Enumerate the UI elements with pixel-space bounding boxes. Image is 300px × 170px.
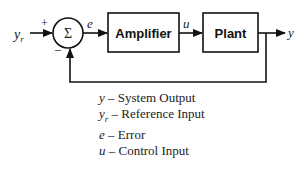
- legend-dash: –: [106, 143, 119, 158]
- legend-item: e – Error: [99, 127, 205, 143]
- legend-description: Error: [118, 127, 145, 142]
- legend-description: System Output: [118, 90, 196, 105]
- legend-item: u – Control Input: [99, 143, 205, 159]
- control-input-label: u: [183, 16, 190, 31]
- legend-dash: –: [108, 106, 121, 121]
- error-label: e: [87, 16, 93, 31]
- sigma-symbol: Σ: [64, 26, 72, 41]
- amplifier-label: Amplifier: [115, 26, 171, 41]
- reference-input-label: yr: [12, 27, 24, 44]
- legend: y – System Output yr – Reference Input e…: [99, 90, 205, 159]
- legend-description: Reference Input: [121, 106, 204, 121]
- legend-item: yr – Reference Input: [99, 106, 205, 127]
- legend-dash: –: [105, 90, 118, 105]
- output-label: y: [286, 25, 294, 40]
- plus-sign: +: [41, 16, 48, 30]
- plant-label: Plant: [215, 26, 247, 41]
- legend-item: y – System Output: [99, 90, 205, 106]
- minus-sign: −: [54, 43, 61, 58]
- legend-description: Control Input: [119, 143, 189, 158]
- legend-dash: –: [105, 127, 118, 142]
